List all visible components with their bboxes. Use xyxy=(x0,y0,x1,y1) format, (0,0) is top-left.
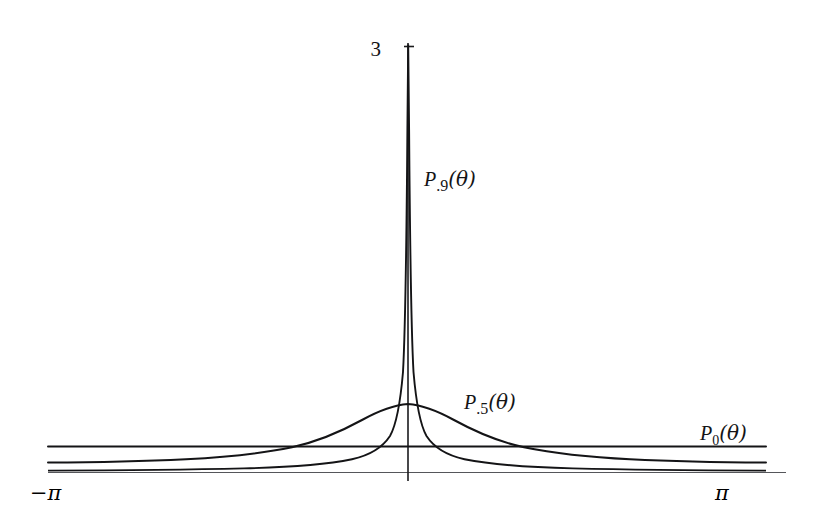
curve-label-p0-subscript: 0 xyxy=(712,433,719,448)
curve-label-p0-arg: (θ) xyxy=(719,421,747,445)
svg-text:P.9(θ): P.9(θ) xyxy=(423,167,476,194)
curve-p05 xyxy=(48,404,766,463)
curve-label-p09-base: P xyxy=(423,168,436,190)
x-tick-label-minus-pi: −π xyxy=(30,481,63,505)
curve-p09 xyxy=(48,45,766,471)
y-tick-label-3: 3 xyxy=(371,37,382,61)
curve-label-p09-arg: (θ) xyxy=(448,167,476,191)
curve-label-p09: P.9(θ) xyxy=(423,167,476,194)
curve-label-p0-base: P xyxy=(699,422,712,444)
plot-canvas: 3 −π π P.9(θ) P.5(θ) P0(θ) xyxy=(0,0,814,530)
curve-label-p05-arg: (θ) xyxy=(488,390,516,414)
svg-text:P0(θ): P0(θ) xyxy=(699,421,747,448)
curve-label-p05-base: P xyxy=(463,391,476,413)
curve-label-p09-subscript: .9 xyxy=(436,177,448,194)
curve-label-p05: P.5(θ) xyxy=(463,390,516,417)
curve-label-p05-subscript: .5 xyxy=(476,400,488,417)
x-tick-label-pi: π xyxy=(714,481,730,505)
poisson-kernel-figure: 3 −π π P.9(θ) P.5(θ) P0(θ) xyxy=(0,0,814,530)
curve-label-p0: P0(θ) xyxy=(699,421,747,448)
svg-text:P.5(θ): P.5(θ) xyxy=(463,390,516,417)
